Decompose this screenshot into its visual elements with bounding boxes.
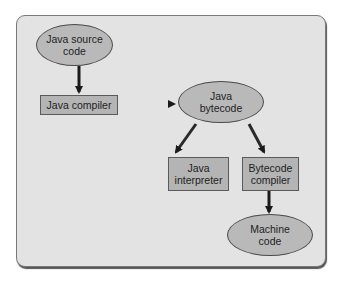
- node-label: Machine: [250, 223, 290, 235]
- node-java-compiler: Java compiler: [40, 95, 118, 115]
- node-label: code: [63, 45, 86, 57]
- node-machine-code: Machine code: [227, 214, 313, 256]
- node-label: Java: [210, 90, 232, 102]
- node-label: interpreter: [175, 174, 223, 186]
- node-label: compiler: [251, 174, 291, 186]
- arrow-bytecode-to-bytecode-compiler: [249, 124, 264, 152]
- node-label: Java compiler: [47, 99, 112, 111]
- node-java-interpreter: Java interpreter: [168, 157, 229, 191]
- node-label: bytecode: [200, 102, 243, 114]
- node-label: Java source: [46, 33, 103, 45]
- node-bytecode-compiler: Bytecode compiler: [242, 157, 299, 191]
- node-label: Java: [187, 162, 209, 174]
- node-java-bytecode: Java bytecode: [178, 81, 264, 123]
- node-java-source-code: Java source code: [36, 24, 113, 66]
- node-label: Bytecode: [249, 162, 293, 174]
- node-label: code: [259, 235, 282, 247]
- arrow-bytecode-to-interpreter: [176, 124, 196, 152]
